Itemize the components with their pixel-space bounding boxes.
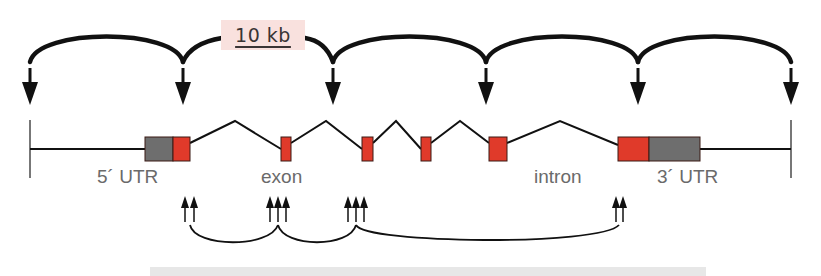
exon-block <box>618 137 649 161</box>
up-arrow-icon <box>612 196 620 222</box>
down-arrow-icon <box>325 68 341 105</box>
caption-bar <box>150 267 706 276</box>
exon-label: exon <box>261 166 302 188</box>
up-arrow-icon <box>282 196 290 222</box>
exon-block <box>421 137 431 161</box>
five-utr-block <box>145 137 173 161</box>
up-arrow-icon <box>190 196 198 222</box>
scale-bar-text: 10 kb <box>235 24 291 46</box>
down-arrow-icon <box>478 68 494 105</box>
down-arrow-icon <box>175 68 191 105</box>
up-arrow-icon <box>344 196 352 222</box>
down-arrow-icon <box>783 68 799 105</box>
exon-block <box>173 137 190 161</box>
up-arrow-icon <box>619 196 627 222</box>
exon-block <box>281 137 291 161</box>
top-down-arrows <box>22 68 799 105</box>
five-utr-label: 5´ UTR <box>97 166 158 188</box>
exon-block <box>489 137 507 161</box>
down-arrow-icon <box>630 68 646 105</box>
intron-label: intron <box>534 166 582 188</box>
top-arcs <box>30 37 791 63</box>
gene-structure-diagram <box>0 0 821 276</box>
down-arrow-icon <box>22 68 38 105</box>
bottom-arcs <box>190 225 619 242</box>
exons <box>145 137 700 161</box>
bottom-up-arrows <box>181 196 627 222</box>
up-arrow-icon <box>352 196 360 222</box>
up-arrow-icon <box>274 196 282 222</box>
exon-block <box>362 137 373 161</box>
up-arrow-icon <box>266 196 274 222</box>
up-arrow-icon <box>360 196 368 222</box>
up-arrow-icon <box>181 196 189 222</box>
three-utr-label: 3´ UTR <box>657 166 718 188</box>
three-utr-block <box>649 137 700 161</box>
introns <box>190 121 618 149</box>
scale-bar-label: 10 kb <box>221 20 305 50</box>
